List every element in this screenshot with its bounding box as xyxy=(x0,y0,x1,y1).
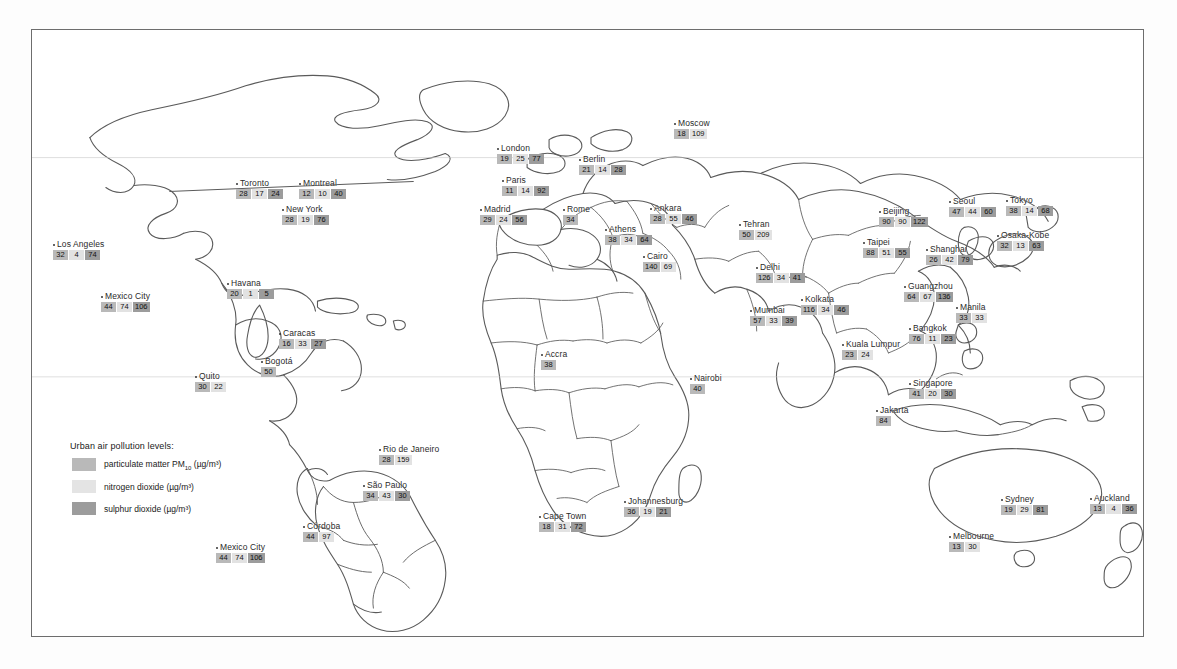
city-values: 264279 xyxy=(926,255,973,265)
city-value: 25 xyxy=(513,154,528,164)
city-value: 22 xyxy=(211,382,226,392)
city-label: Shanghai xyxy=(926,245,973,254)
city-value: 30 xyxy=(195,382,210,392)
legend-label-pm10: particulate matter PM10 (µg/m³) xyxy=(104,459,221,471)
city-label: Nairobi xyxy=(690,374,722,383)
city-values: 38 xyxy=(541,360,567,370)
city-label: Mumbai xyxy=(750,306,797,315)
city-marker: Moscow18109 xyxy=(674,119,710,139)
city-value: 4 xyxy=(1106,504,1121,514)
city-value: 90 xyxy=(895,217,910,227)
city-value: 42 xyxy=(942,255,957,265)
city-label: Bangkok xyxy=(909,324,956,333)
city-label: New York xyxy=(282,205,329,214)
legend-swatch-so2 xyxy=(72,502,96,515)
city-marker: Kolkata1163446 xyxy=(801,295,849,315)
city-marker: Quito3022 xyxy=(195,372,226,392)
city-marker: Taipei885155 xyxy=(863,238,910,258)
city-value: 40 xyxy=(331,189,346,199)
city-value: 50 xyxy=(261,367,276,377)
city-value: 36 xyxy=(624,507,639,517)
city-point-icon xyxy=(956,307,958,309)
city-values: 4474106 xyxy=(101,302,150,312)
city-value: 40 xyxy=(690,384,705,394)
city-point-icon xyxy=(842,344,844,346)
city-value: 44 xyxy=(101,302,116,312)
city-values: 40 xyxy=(690,384,722,394)
city-label: Kolkata xyxy=(801,295,849,304)
city-value: 19 xyxy=(497,154,512,164)
map-legend: Urban air pollution levels: particulate … xyxy=(70,441,300,524)
city-point-icon xyxy=(750,310,752,312)
city-value: 33 xyxy=(766,316,781,326)
city-label: Auckland xyxy=(1090,494,1137,503)
city-marker: Beijing9090122 xyxy=(879,207,928,227)
city-value: 50 xyxy=(739,230,754,240)
city-value: 106 xyxy=(133,302,150,312)
city-values: 381468 xyxy=(1006,206,1053,216)
city-value: 44 xyxy=(303,532,318,542)
city-value: 47 xyxy=(949,207,964,217)
city-value: 136 xyxy=(936,292,953,302)
city-values: 3022 xyxy=(195,382,226,392)
city-value: 32 xyxy=(997,241,1012,251)
city-marker: Mexico City4474106 xyxy=(101,292,150,312)
city-values: 28159 xyxy=(379,455,439,465)
city-label: Taipei xyxy=(863,238,910,247)
city-marker: Ankara285546 xyxy=(650,204,697,224)
city-label: Paris xyxy=(502,176,549,185)
city-value: 13 xyxy=(1013,241,1028,251)
city-values: 13436 xyxy=(1090,504,1137,514)
city-marker: Tehran50209 xyxy=(739,220,772,240)
city-marker: Delhi1263441 xyxy=(756,263,805,283)
city-point-icon xyxy=(690,378,692,380)
city-value: 92 xyxy=(534,186,549,196)
city-point-icon xyxy=(299,183,301,185)
city-marker: Rio de Janeiro28159 xyxy=(379,445,439,465)
city-point-icon xyxy=(949,201,951,203)
city-value: 28 xyxy=(236,189,251,199)
city-label: Singapore xyxy=(909,379,956,388)
city-value: 31 xyxy=(555,522,570,532)
city-marker: Rome34 xyxy=(563,205,590,225)
city-values: 412030 xyxy=(909,389,956,399)
city-value: 29 xyxy=(1017,505,1032,515)
city-point-icon xyxy=(863,242,865,244)
legend-item-pm10: particulate matter PM10 (µg/m³) xyxy=(70,458,300,471)
city-value: 21 xyxy=(579,165,594,175)
city-value: 74 xyxy=(85,250,100,260)
city-point-icon xyxy=(53,244,55,246)
city-point-icon xyxy=(643,256,645,258)
city-value: 23 xyxy=(842,350,857,360)
city-point-icon xyxy=(502,180,504,182)
city-label: Kuala Lumpur xyxy=(842,340,900,349)
city-marker: New York281976 xyxy=(282,205,329,225)
city-value: 19 xyxy=(640,507,655,517)
city-label: Johannesburg xyxy=(624,497,683,506)
city-value: 33 xyxy=(972,313,987,323)
city-values: 4474106 xyxy=(216,553,265,563)
city-value: 74 xyxy=(117,302,132,312)
city-marker: Johannesburg361921 xyxy=(624,497,683,517)
legend-title: Urban air pollution levels: xyxy=(70,441,300,451)
city-values: 121040 xyxy=(299,189,346,199)
city-marker: Accra38 xyxy=(541,350,567,370)
city-values: 163327 xyxy=(279,339,326,349)
city-marker: Tokyo381468 xyxy=(1006,196,1053,216)
city-value: 24 xyxy=(858,350,873,360)
city-values: 192577 xyxy=(497,154,544,164)
city-label: Montreal xyxy=(299,179,346,188)
city-value: 51 xyxy=(879,248,894,258)
city-value: 79 xyxy=(958,255,973,265)
city-marker: Auckland13436 xyxy=(1090,494,1137,514)
legend-swatch-pm10 xyxy=(72,458,96,471)
city-value: 72 xyxy=(571,522,586,532)
city-values: 111492 xyxy=(502,186,549,196)
legend-label-so2: sulphur dioxide (µg/m³) xyxy=(104,504,191,514)
city-marker: Los Angeles32474 xyxy=(53,240,104,260)
city-marker: Kuala Lumpur2324 xyxy=(842,340,900,360)
city-label: Cairo xyxy=(643,252,676,261)
city-marker: Shanghai264279 xyxy=(926,245,973,265)
city-value: 34 xyxy=(621,235,636,245)
city-label: São Paulo xyxy=(363,481,410,490)
